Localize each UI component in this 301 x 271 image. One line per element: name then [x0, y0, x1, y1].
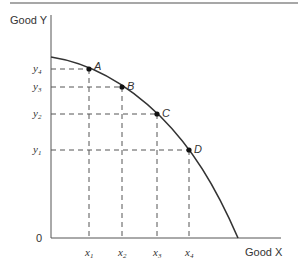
guide-lines — [51, 69, 189, 238]
x-tick-1: x1 — [84, 246, 93, 260]
ppf-chart: A B C D Good Y Good X 0 y4 y3 y2 y1 x1 x… — [0, 0, 301, 271]
y-tick-1: y1 — [32, 143, 41, 157]
origin-label: 0 — [36, 232, 42, 244]
x-axis-title: Good X — [245, 246, 283, 258]
point-b — [119, 84, 124, 89]
label-c: C — [162, 107, 170, 119]
y-tick-4: y4 — [32, 62, 42, 76]
ppf-curve — [51, 57, 238, 238]
y-tick-3: y3 — [32, 80, 42, 94]
point-a — [86, 66, 91, 71]
y-axis-title: Good Y — [10, 14, 48, 26]
label-b: B — [127, 80, 134, 92]
y-tick-2: y2 — [32, 107, 42, 121]
x-tick-3: x3 — [152, 246, 162, 260]
x-tick-2: x2 — [117, 246, 127, 260]
x-tick-4: x4 — [184, 246, 194, 260]
point-c — [154, 111, 159, 116]
point-d — [186, 147, 191, 152]
label-d: D — [194, 143, 202, 155]
label-a: A — [93, 60, 101, 72]
